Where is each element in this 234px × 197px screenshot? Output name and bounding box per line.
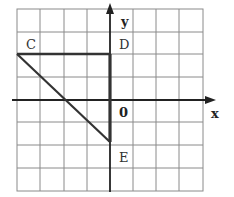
x-axis-label: x [211, 106, 219, 121]
y-axis-label: y [120, 14, 129, 29]
point-label-d: D [119, 37, 129, 52]
coordinate-diagram: C D E 0 y x [0, 0, 234, 197]
point-label-e: E [119, 150, 129, 165]
x-axis [12, 96, 216, 104]
point-label-c: C [26, 37, 36, 52]
origin-label: 0 [119, 105, 128, 120]
x-axis-arrow-icon [205, 96, 216, 104]
